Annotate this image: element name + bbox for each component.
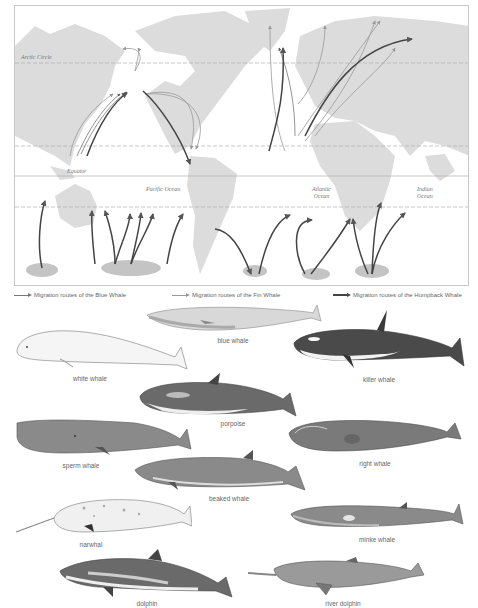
blue-whale-label: blue whale: [217, 337, 248, 344]
river-dolphin-label: river dolphin: [325, 600, 360, 607]
narwhal-label: narwhal: [80, 541, 103, 548]
equator-label: Equator: [67, 168, 87, 175]
porpoise-label: porpoise: [221, 420, 246, 427]
narwhal-illustration: [14, 496, 192, 538]
killer-whale-label: killer whale: [363, 376, 395, 383]
arctic-circle-label: Arctic Circle: [21, 54, 52, 61]
dolphin-illustration: [58, 549, 236, 599]
porpoise-illustration: [138, 371, 300, 421]
feeding-grounds: [26, 260, 389, 280]
right-whale-label: right whale: [359, 460, 390, 467]
indian-ocean-label: Indian Ocean: [417, 186, 433, 200]
killer-whale-illustration: [292, 308, 467, 373]
legend-fin-whale: Migration routes of the Fin Whale: [172, 292, 280, 298]
migration-map: Arctic Circle Equator Pacific Ocean Atla…: [14, 5, 469, 286]
river-dolphin-illustration: [246, 555, 431, 600]
minke-whale-label: minke whale: [359, 536, 395, 543]
right-whale-illustration: [287, 417, 465, 455]
beaked-whale-label: beaked whale: [209, 495, 249, 502]
land-masses: [15, 8, 469, 274]
pacific-ocean-label: Pacific Ocean: [146, 186, 180, 193]
thick-arrow-icon: [333, 292, 351, 298]
world-map-graphic: [15, 6, 469, 286]
legend-blue-whale: Migration routes of the Blue Whale: [14, 292, 126, 298]
beaked-whale-illustration: [133, 446, 308, 494]
dolphin-label: dolphin: [137, 600, 158, 607]
white-whale-illustration: [15, 327, 190, 375]
atlantic-ocean-label: Atlantic Ocean: [312, 186, 331, 200]
thin-arrow-icon: [14, 292, 32, 298]
light-arrow-icon: [172, 292, 190, 298]
legend-humpback-whale: Migration routes of the Humpback Whale: [333, 292, 462, 298]
minke-whale-illustration: [289, 500, 464, 530]
sperm-whale-label: sperm whale: [63, 462, 100, 469]
white-whale-label: white whale: [73, 375, 107, 382]
